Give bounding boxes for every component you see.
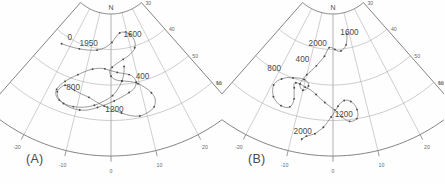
data-point <box>343 100 345 102</box>
data-point <box>92 68 94 70</box>
dec-tick-label: 20 <box>202 144 208 150</box>
data-point <box>289 106 291 108</box>
data-point <box>128 74 130 76</box>
date-annotation: 1200 <box>335 110 354 119</box>
data-point <box>337 105 339 107</box>
date-annotation: 0 <box>67 33 72 42</box>
date-annotation: 1600 <box>340 28 359 37</box>
inc-tick-label: 30 <box>367 0 373 6</box>
data-point <box>139 115 141 117</box>
data-point <box>328 47 330 49</box>
data-point <box>79 109 81 111</box>
data-point <box>306 74 308 76</box>
panel-a-label: (A) <box>26 152 44 166</box>
data-point <box>349 120 351 122</box>
dec-tick-label: 20 <box>424 144 430 150</box>
data-point <box>134 47 136 49</box>
data-point <box>72 106 74 108</box>
data-point <box>137 83 139 85</box>
data-point <box>128 92 130 94</box>
date-annotation: 2000 <box>294 127 313 136</box>
data-point <box>97 106 99 108</box>
data-point <box>96 49 98 51</box>
data-point <box>334 49 336 51</box>
dec-tick-label: 10 <box>157 162 163 168</box>
data-point <box>77 74 79 76</box>
data-point <box>340 50 342 52</box>
data-point <box>58 99 60 101</box>
data-point <box>122 58 124 60</box>
data-point <box>56 91 58 93</box>
data-point <box>314 133 316 135</box>
data-point <box>324 55 326 57</box>
data-point <box>303 79 305 81</box>
data-point <box>293 98 295 100</box>
data-point <box>88 96 90 98</box>
date-annotation: 1200 <box>105 105 124 114</box>
data-point <box>153 106 155 108</box>
data-point <box>150 92 152 94</box>
data-point <box>119 32 121 34</box>
data-point <box>111 66 113 68</box>
data-point <box>315 94 317 96</box>
dec-tick-label: 10 <box>379 162 385 168</box>
data-point <box>63 103 65 105</box>
data-point <box>123 65 125 67</box>
inc-tick-label: 40 <box>391 26 397 32</box>
cardinal-north-label: N <box>108 4 113 11</box>
dec-tick-label: -20 <box>235 144 243 150</box>
data-point <box>116 71 118 73</box>
panel-b-label: (B) <box>248 152 266 166</box>
data-point <box>113 100 115 102</box>
date-annotation: 400 <box>136 72 150 81</box>
data-point <box>315 65 317 67</box>
data-point <box>272 96 274 98</box>
data-point <box>356 109 358 111</box>
data-point <box>61 43 63 45</box>
data-point <box>56 88 58 90</box>
data-point <box>308 85 310 87</box>
data-point <box>121 80 123 82</box>
data-point <box>302 89 304 91</box>
data-point <box>322 126 324 128</box>
data-point <box>293 87 295 89</box>
dec-tick-label: -10 <box>59 162 67 168</box>
data-point <box>112 95 114 97</box>
dec-tick-label: 0 <box>110 168 113 174</box>
panel-a: N3040506070Inc-30-20-100102030Dec0195016… <box>0 0 222 184</box>
data-point <box>280 105 282 107</box>
inc-tick-label: 50 <box>414 53 420 59</box>
date-annotation: 800 <box>267 64 281 73</box>
data-point <box>324 102 326 104</box>
data-point <box>292 77 294 79</box>
data-point <box>273 84 275 86</box>
data-point <box>356 118 358 120</box>
data-point <box>110 75 112 77</box>
dec-tick-label: 0 <box>332 168 335 174</box>
data-point <box>350 101 352 103</box>
data-point <box>345 44 347 46</box>
inc-tick-label: 30 <box>145 0 151 6</box>
data-point <box>135 81 137 83</box>
data-point <box>281 78 283 80</box>
date-annotation: 1600 <box>123 30 142 39</box>
inc-axis-name: Inc <box>439 80 444 86</box>
data-point <box>93 104 95 106</box>
panel-b: N3040506070Inc-30-20-100102030Dec2000160… <box>222 0 444 184</box>
data-point <box>301 138 303 140</box>
data-point <box>111 41 113 43</box>
data-point <box>295 82 297 84</box>
data-point <box>330 116 332 118</box>
cardinal-north-label: N <box>330 4 335 11</box>
data-point <box>299 83 301 85</box>
data-point <box>104 68 106 70</box>
date-annotation: 2000 <box>309 39 328 48</box>
date-annotation: 800 <box>66 83 80 92</box>
inc-tick-label: 50 <box>192 53 198 59</box>
dec-tick-label: -20 <box>13 144 21 150</box>
inc-tick-label: 40 <box>169 26 175 32</box>
figure-container: N3040506070Inc-30-20-100102030Dec0195016… <box>0 0 445 184</box>
date-annotation: 1950 <box>80 39 99 48</box>
dec-tick-label: -10 <box>281 162 289 168</box>
date-annotation: 400 <box>296 55 310 64</box>
